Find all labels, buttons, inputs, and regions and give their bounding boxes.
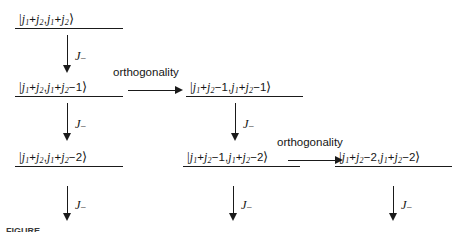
arrow-shaft [233,186,234,213]
ket-label-r3c1: |j1+j2,j1+j2−2⟩ [15,150,123,166]
figure-caption-fragment: FIGURE [6,226,76,232]
arrow-shaft [67,35,68,65]
arrow-shaft [288,160,335,161]
lowering-arrow-c1-r3out: J− [62,186,74,224]
ket-label-r3c3: |j1+j2−2,j1+j2−2⟩ [335,150,452,166]
arrow-head [229,213,237,221]
lowering-arrow-c2-r3out: J− [228,186,240,224]
arrow-head [63,213,71,221]
arrow-shaft [67,103,68,133]
arrow-shaft [235,103,236,133]
state-node-r3c3: |j1+j2−2,j1+j2−2⟩ [335,150,452,167]
state-underline-r3c2 [183,166,300,167]
lowering-arrow-c1-r1r2: J− [62,35,74,73]
orthogonality-label-r3: orthogonality [277,136,343,148]
state-node-r1c1: |j1+j2,j1+j2⟩ [15,12,123,29]
ket-label-r2c1: |j1+j2,j1+j2−1⟩ [15,80,123,96]
orthogonality-label-r2: orthogonality [113,66,179,78]
ket-label-r3c2: |j1+j2−1,j1+j2−2⟩ [183,150,300,166]
ket-label-r1c1: |j1+j2,j1+j2⟩ [15,12,123,28]
lowering-operator-label: J− [243,117,254,132]
state-underline-r3c1 [15,166,123,167]
state-node-r3c1: |j1+j2,j1+j2−2⟩ [15,150,123,167]
state-underline-r2c2 [186,96,303,97]
orthogonality-arrow-r2 [128,85,183,97]
lowering-arrow-c1-r2r3: J− [62,103,74,141]
state-node-r2c2: |j1+j2−1,j1+j2−1⟩ [186,80,303,97]
state-node-r2c1: |j1+j2,j1+j2−1⟩ [15,80,123,97]
arrow-shaft [393,186,394,213]
state-underline-r2c1 [15,96,123,97]
arrow-head [63,65,71,73]
arrow-shaft [67,186,68,213]
arrow-head [231,133,239,141]
state-underline-r1c1 [15,28,123,29]
lowering-operator-label: J− [241,198,252,213]
state-node-r3c2: |j1+j2−1,j1+j2−2⟩ [183,150,300,167]
arrow-head [175,86,183,94]
ket-label-r2c2: |j1+j2−1,j1+j2−1⟩ [186,80,303,96]
lowering-operator-label: J− [75,198,86,213]
lowering-operator-label: J− [401,198,412,213]
arrow-head [63,133,71,141]
state-underline-r3c3 [335,166,452,167]
lowering-operator-label: J− [75,117,86,132]
lowering-arrow-c3-r3out: J− [388,186,400,224]
arrow-head [389,213,397,221]
lowering-arrow-c2-r2r3: J− [230,103,242,141]
lowering-operator-label: J− [75,49,86,64]
angular-momentum-ladder-diagram: |j1+j2,j1+j2⟩ J− |j1+j2,j1+j2−1⟩ orthogo… [0,0,455,232]
arrow-shaft [128,90,175,91]
